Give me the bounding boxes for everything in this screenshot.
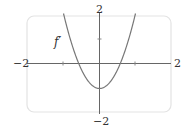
function-label: f′ (53, 35, 61, 49)
y-min-label: −2 (93, 115, 109, 128)
y-max-label: 2 (96, 3, 103, 16)
x-max-label: 2 (174, 57, 181, 70)
x-min-label: −2 (13, 57, 29, 70)
chart-figure: −2 2 2 −2 f′ (0, 0, 186, 131)
